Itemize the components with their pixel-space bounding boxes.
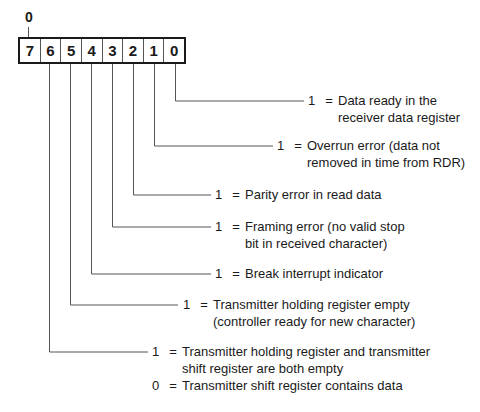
bit6-description: 1 = Transmitter holding register and tra… [152,343,430,394]
bit2-leader-line [134,64,212,195]
bit3-description: 1 = Framing error (no valid stop bit in … [215,218,405,252]
bit4-description: 1 = Break interrupt indicator [215,265,383,282]
register-bit-diagram: 0 7 6 5 4 3 2 1 0 [0,0,480,412]
bit2-description: 1 = Parity error in read data [215,186,382,203]
bit5-leader-line [71,64,179,305]
bit0-leader-line [176,64,305,101]
bit5-description: 1 = Transmitter holding register empty (… [183,296,415,330]
bit1-description: 1 = Overrun error (data not removed in t… [277,137,465,171]
bit4-leader-line [92,64,212,274]
bit1-leader-line [155,64,274,146]
bit0-description: 1 = Data ready in the receiver data regi… [308,92,460,126]
